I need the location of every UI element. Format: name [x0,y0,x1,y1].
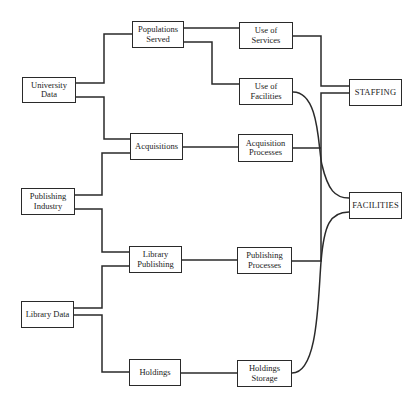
edge-bus-staffing [292,93,349,261]
node-use-of-services: Use of Services [239,22,293,49]
node-library-data: Library Data [21,301,74,328]
edge-populations-usefacilities [184,42,239,84]
node-use-of-facilities: Use of Facilities [239,78,293,105]
edge-publishing-libpub [75,209,129,252]
node-acquisition-processes: Acquisition Processes [238,134,293,162]
edge-publishing-acquisitions [75,153,130,195]
node-holdings: Holdings [129,359,181,386]
edge-librarydata-holdings [74,315,129,372]
edge-useservices-staffing [293,36,349,86]
node-staffing: STAFFING [349,79,402,106]
node-populations-served: Populations Served [132,21,184,48]
edge-university-populations [76,34,132,83]
node-facilities: FACILITIES [349,192,402,219]
flow-diagram: University Data Publishing Industry Libr… [0,0,420,406]
edge-university-acquisitions [76,97,130,139]
edge-librarydata-libpub [74,266,129,308]
node-publishing-processes: Publishing Processes [237,247,292,274]
node-library-publishing: Library Publishing [129,246,182,273]
node-acquisitions: Acquisitions [130,133,183,160]
node-holdings-storage: Holdings Storage [237,360,292,387]
node-university-data: University Data [22,77,76,103]
node-publishing-industry: Publishing Industry [21,188,75,215]
